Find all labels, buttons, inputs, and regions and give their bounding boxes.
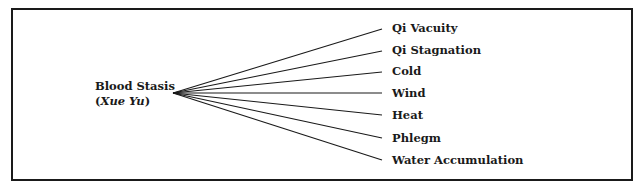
target-heat: Heat — [392, 108, 423, 122]
source-sublabel: (Xue Yu) — [95, 94, 175, 109]
target-qi-vacuity: Qi Vacuity — [392, 21, 457, 35]
target-cold: Cold — [392, 64, 421, 78]
target-water-accumulation: Water Accumulation — [392, 153, 523, 167]
target-phlegm: Phlegm — [392, 131, 441, 145]
source-node: Blood Stasis (Xue Yu) — [95, 79, 175, 109]
source-label: Blood Stasis — [95, 79, 175, 94]
target-qi-stagnation: Qi Stagnation — [392, 43, 481, 57]
target-wind: Wind — [392, 86, 425, 100]
